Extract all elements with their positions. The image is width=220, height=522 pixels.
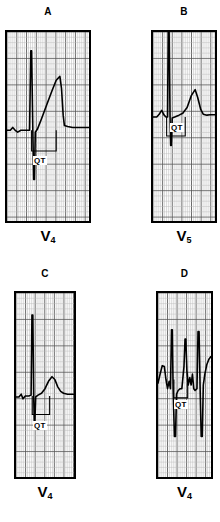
ecg-trace-b [153, 32, 215, 221]
lead-label-c: V4 [14, 484, 76, 502]
panel-letter-b: B [151, 6, 217, 17]
lead-subscript-a: 4 [51, 235, 56, 245]
qt-label-a: QT [33, 156, 47, 165]
qt-label-c: QT [33, 421, 47, 430]
ecg-trace-a [7, 32, 89, 221]
lead-name-d: V [177, 483, 187, 500]
panel-a: A QT V4 [5, 6, 91, 256]
ecg-trace-c [16, 293, 74, 477]
lead-label-d: V4 [156, 484, 213, 502]
lead-subscript-d: 4 [187, 491, 192, 501]
qt-label-d: QT [174, 400, 188, 409]
ecg-strip-c: QT [14, 291, 76, 479]
ecg-trace-d [158, 293, 211, 477]
lead-subscript-b: 5 [187, 235, 192, 245]
lead-name-a: V [40, 227, 50, 244]
lead-subscript-c: 4 [48, 491, 53, 501]
lead-label-a: V4 [5, 228, 91, 246]
panel-b: B QT V5 [151, 6, 217, 256]
lead-label-b: V5 [151, 228, 217, 246]
panel-d: D QT V4 [156, 268, 213, 518]
panel-letter-d: D [156, 268, 213, 279]
lead-name-c: V [37, 483, 47, 500]
ecg-strip-d: QT [156, 291, 213, 479]
lead-name-b: V [176, 227, 186, 244]
ecg-strip-a: QT [5, 30, 91, 223]
ecg-figure: A QT V4 B QT V5 C QT V4 [0, 0, 220, 522]
panel-letter-c: C [14, 268, 76, 279]
panel-letter-a: A [5, 6, 91, 17]
qt-label-b: QT [170, 123, 184, 132]
ecg-strip-b: QT [151, 30, 217, 223]
panel-c: C QT V4 [14, 268, 76, 518]
